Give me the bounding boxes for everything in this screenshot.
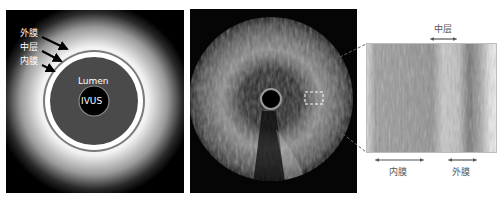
histology-arrows xyxy=(0,0,503,201)
histology-label-intima: 内膜 xyxy=(389,167,407,177)
histology-label-adventitia: 外膜 xyxy=(452,167,470,177)
histology-label-media: 中层 xyxy=(434,24,452,34)
